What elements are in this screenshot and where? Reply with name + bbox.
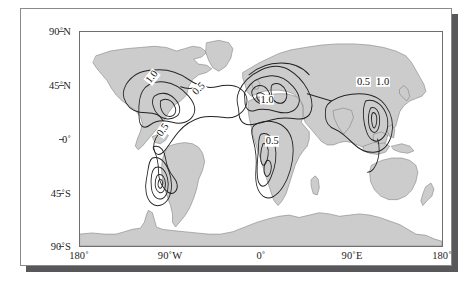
contour-label-asia-1p0: 1.0	[376, 77, 390, 88]
y-tick-mark-90n	[59, 31, 64, 32]
contour-label-na-1p0: 1.0	[144, 68, 161, 86]
contour-label-epac-0p5: 0.5	[154, 121, 171, 139]
y-tick-mark-90s	[59, 246, 64, 247]
y-tick-mark-0	[59, 139, 64, 140]
contour-label-asia-0p5: 0.5	[356, 77, 370, 88]
contour-label-eur-1p0: 1.0	[260, 95, 274, 106]
world-map-plot-area: 1.0 0.5 0.5 1.0 0.5 0.5 1.0	[79, 31, 443, 247]
x-tick-label-0: 0˚	[257, 250, 266, 261]
contour-label-afr-0p5: 0.5	[265, 136, 279, 147]
y-tick-mark-45s	[59, 193, 64, 194]
x-tick-label-90e: 90˚E	[342, 250, 363, 261]
figure-card: 90˚N 45˚N 0˚ 45˚S 90˚S 180˚ 90˚W 0˚ 90˚E…	[20, 8, 452, 266]
y-tick-mark-45n	[59, 85, 64, 86]
contour-label-na-0p5: 0.5	[190, 80, 207, 97]
contour-label-group: 1.0 0.5 0.5 1.0 0.5 0.5 1.0	[80, 32, 442, 246]
x-tick-label-180w: 180˚	[69, 250, 89, 261]
x-tick-label-90w: 90˚W	[158, 250, 182, 261]
x-tick-label-180e: 180˚	[432, 250, 452, 261]
